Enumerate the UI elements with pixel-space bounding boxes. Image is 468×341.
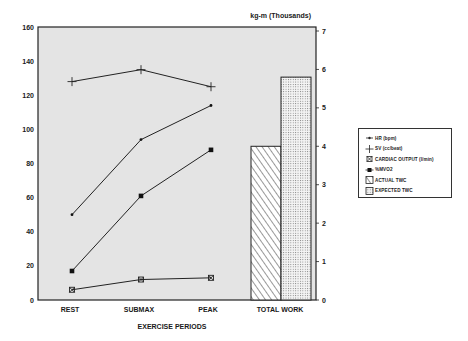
left-axis: 020406080100120140160: [22, 24, 34, 304]
legend-item-hr: HR (bpm): [365, 133, 451, 144]
filled-square-icon: [365, 166, 374, 174]
x-category-total-work: TOTAL WORK: [257, 306, 304, 313]
left-tick-label: 100: [22, 126, 34, 133]
x-category-peak: PEAK: [198, 306, 217, 313]
right-axis-title: kg-m (Thousands): [250, 12, 311, 20]
right-tick-label: 7: [322, 28, 326, 35]
left-tick-label: 80: [26, 160, 34, 167]
right-axis: 01234567: [316, 28, 326, 304]
legend-label: SV (cc/beat): [375, 146, 403, 151]
right-tick-label: 5: [322, 104, 326, 111]
left-tick-label: 160: [22, 24, 34, 31]
legend-label: %MVO2: [375, 167, 393, 172]
expected-twc-bar: [281, 77, 311, 300]
actual-twc-bar: [251, 146, 281, 300]
dot-line-icon: [365, 134, 374, 142]
left-tick-label: 20: [26, 262, 34, 269]
plus-icon: [365, 145, 374, 153]
left-tick-label: 40: [26, 228, 34, 235]
left-tick-label: 120: [22, 92, 34, 99]
left-tick-label: 0: [30, 297, 34, 304]
legend-label: EXPECTED TWC: [375, 188, 413, 193]
right-tick-label: 2: [322, 220, 326, 227]
legend-item-actual-twc: ACTUAL TWC: [365, 175, 451, 186]
right-tick-label: 4: [322, 143, 326, 150]
legend-label: ACTUAL TWC: [375, 178, 407, 183]
legend-item-cardiac-output: CARDIAC OUTPUT (l/min): [365, 154, 451, 165]
right-tick-label: 3: [322, 181, 326, 188]
legend: HR (bpm) SV (cc/beat) CARDIAC OUTPUT (l/…: [358, 128, 452, 198]
legend-item-expected-twc: EXPECTED TWC: [365, 186, 451, 197]
left-tick-label: 140: [22, 58, 34, 65]
legend-item-sv: SV (cc/beat): [365, 144, 451, 155]
x-category-submax: SUBMAX: [124, 306, 155, 313]
right-tick-label: 0: [322, 297, 326, 304]
asterisk-icon: [365, 155, 374, 163]
left-tick-label: 60: [26, 194, 34, 201]
right-tick-label: 6: [322, 66, 326, 73]
hatched-box-icon: [365, 176, 374, 184]
legend-label: HR (bpm): [375, 136, 396, 141]
dotted-box-icon: [365, 187, 374, 195]
legend-item-mvo2: %MVO2: [365, 165, 451, 176]
x-axis-title: EXERCISE PERIODS: [138, 323, 207, 330]
x-category-rest: REST: [61, 306, 80, 313]
right-tick-label: 1: [322, 258, 326, 265]
legend-label: CARDIAC OUTPUT (l/min): [375, 157, 434, 162]
